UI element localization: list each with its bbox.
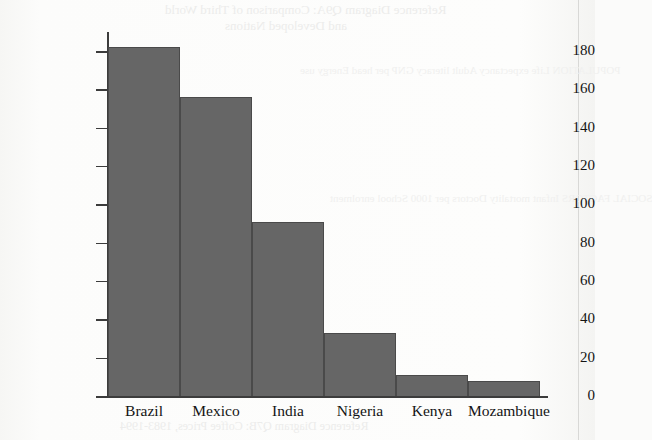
bar-mexico [180, 97, 252, 396]
x-axis-label-mozambique: Mozambique [468, 402, 540, 420]
y-axis-tick-mark [96, 128, 108, 129]
y-axis-tick-mark [96, 51, 108, 52]
y-axis-tick-label: 100 [539, 195, 595, 212]
y-axis-tick-mark [96, 166, 108, 167]
x-axis-label-india: India [252, 402, 324, 420]
y-axis-tick-mark [96, 204, 108, 205]
y-axis-tick-mark [96, 358, 108, 359]
x-axis-label-nigeria: Nigeria [324, 402, 396, 420]
y-axis-tick-label: 40 [539, 310, 595, 327]
y-axis-tick-label: 120 [539, 157, 595, 174]
x-axis-label-kenya: Kenya [396, 402, 468, 420]
y-axis-tick-mark [96, 281, 108, 282]
bar-nigeria [324, 333, 396, 396]
bar-brazil [108, 47, 180, 396]
y-axis-tick-label: 20 [539, 349, 595, 366]
bar-india [252, 222, 324, 396]
y-axis-tick-label: 140 [539, 119, 595, 136]
y-axis-tick-label: 80 [539, 234, 595, 251]
y-axis-tick-label: 160 [539, 80, 595, 97]
y-axis-tick-mark [96, 319, 108, 320]
bar-mozambique [468, 381, 540, 396]
x-axis-label-mexico: Mexico [180, 402, 252, 420]
x-axis-label-brazil: Brazil [108, 402, 180, 420]
y-axis-tick-mark [96, 243, 108, 244]
bar-kenya [396, 375, 468, 396]
y-axis-tick-label: 180 [539, 42, 595, 59]
x-axis-line [96, 396, 548, 398]
y-axis-tick-mark [96, 89, 108, 90]
y-axis-tick-label: 60 [539, 272, 595, 289]
y-axis-tick-mark [96, 396, 108, 397]
plot-area [108, 32, 540, 396]
